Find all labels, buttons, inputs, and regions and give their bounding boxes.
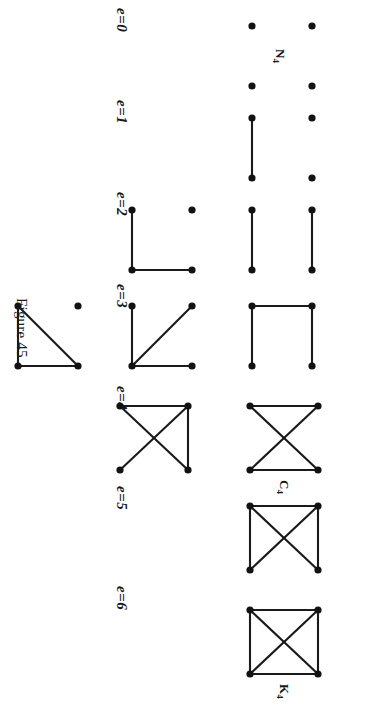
- vertex: [248, 362, 255, 369]
- graph-2k2: [248, 206, 316, 274]
- vertex: [188, 302, 195, 309]
- vertex: [246, 606, 253, 613]
- vertex: [248, 302, 255, 309]
- vertex: [248, 22, 255, 29]
- column-e2: e=2: [0, 184, 382, 276]
- column-label-e5: e=5: [113, 486, 130, 510]
- vertex: [128, 302, 135, 309]
- column-label-e0: e=0: [113, 8, 130, 32]
- vertex: [314, 670, 321, 677]
- graph-p3-plus-k1-svg: [128, 206, 196, 274]
- graph-label-n4: N4: [272, 49, 288, 63]
- vertex: [308, 22, 315, 29]
- graph-paw: [116, 402, 192, 474]
- vertex: [188, 362, 195, 369]
- graph-diamond-svg: [246, 502, 322, 574]
- graph-paw-svg: [116, 402, 192, 474]
- graph-c4-svg: [246, 402, 322, 474]
- vertex: [246, 466, 253, 473]
- vertex: [308, 114, 315, 121]
- vertex: [188, 206, 195, 213]
- graph-label-k4: K4: [276, 684, 292, 699]
- graph-k13-star: [128, 302, 196, 370]
- graph-k4-svg: [246, 606, 322, 678]
- figure-caption: Figure 45: [13, 298, 30, 358]
- vertex: [116, 402, 123, 409]
- column-e1: e=1: [0, 92, 382, 184]
- graph-c4: C4: [246, 402, 322, 474]
- graph-p4-svg: [248, 302, 316, 370]
- vertex: [248, 82, 255, 89]
- vertex: [246, 502, 253, 509]
- figure-canvas: e=0 N4 e=1: [0, 0, 382, 714]
- vertex: [246, 402, 253, 409]
- vertex: [128, 266, 135, 273]
- graph-k4: K4: [246, 606, 322, 678]
- graph-columns: e=0 N4 e=1: [0, 0, 382, 714]
- column-label-e6: e=6: [113, 586, 130, 610]
- column-e5: e=5: [0, 476, 382, 576]
- column-e4: e=4 C4: [0, 376, 382, 476]
- vertex: [246, 670, 253, 677]
- vertex: [184, 466, 191, 473]
- edge: [132, 306, 192, 366]
- vertex: [246, 566, 253, 573]
- vertex: [314, 566, 321, 573]
- vertex: [248, 174, 255, 181]
- vertex: [184, 402, 191, 409]
- vertex: [314, 402, 321, 409]
- graph-p3-plus-k1: [128, 206, 196, 274]
- vertex: [128, 362, 135, 369]
- vertex: [128, 206, 135, 213]
- figure-page: e=0 N4 e=1: [0, 0, 382, 714]
- vertex: [308, 206, 315, 213]
- vertex: [248, 266, 255, 273]
- vertex: [308, 266, 315, 273]
- column-label-e1: e=1: [113, 100, 130, 124]
- vertex: [308, 174, 315, 181]
- graph-p4: [248, 302, 316, 370]
- vertex: [314, 466, 321, 473]
- vertex: [308, 302, 315, 309]
- vertex: [14, 362, 21, 369]
- vertex: [248, 114, 255, 121]
- vertex: [74, 302, 81, 309]
- graph-n4: N4: [248, 22, 316, 90]
- column-e3: e=3: [0, 276, 382, 376]
- vertex: [74, 362, 81, 369]
- graph-diamond: [246, 502, 322, 574]
- vertex: [116, 466, 123, 473]
- vertex: [314, 606, 321, 613]
- graph-k2-plus-2k1-svg: [248, 114, 316, 182]
- column-e0: e=0 N4: [0, 0, 382, 92]
- graph-2k2-svg: [248, 206, 316, 274]
- vertex: [314, 502, 321, 509]
- column-e6: e=6 K4: [0, 576, 382, 686]
- vertex: [308, 82, 315, 89]
- graph-k13-star-svg: [128, 302, 196, 370]
- vertex: [308, 362, 315, 369]
- vertex: [188, 266, 195, 273]
- graph-k2-plus-2k1: [248, 114, 316, 182]
- vertex: [248, 206, 255, 213]
